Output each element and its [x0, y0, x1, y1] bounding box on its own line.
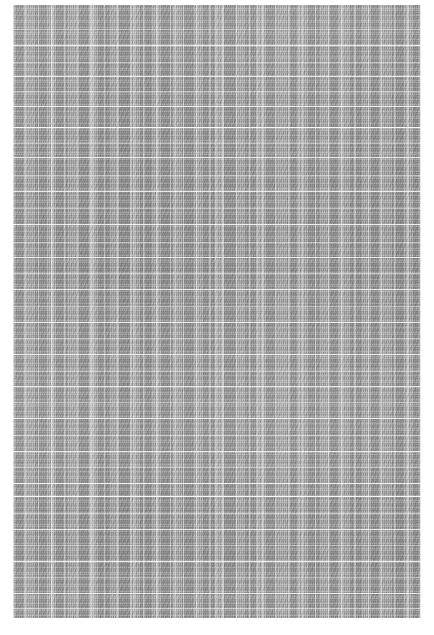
fabric-weft-line	[13, 62, 421, 63]
fabric-weft-line	[13, 467, 421, 468]
fabric-weft-line	[13, 608, 421, 609]
fabric-weft-line	[13, 577, 421, 578]
fabric-weft-line	[13, 496, 421, 497]
fabric-weft-line	[13, 29, 421, 30]
fabric-weft-line	[13, 451, 421, 452]
fabric-weft-line	[13, 191, 421, 192]
fabric-weft-line	[13, 175, 421, 176]
fabric-weft-line	[13, 529, 421, 530]
fabric-weft-line	[13, 224, 421, 225]
fabric-weft-line	[13, 106, 421, 107]
fabric-warp-threads-layer	[13, 5, 421, 618]
fabric-weft-line	[13, 45, 421, 46]
fabric-weft-line	[13, 143, 421, 144]
fabric-weft-line	[13, 273, 421, 274]
fabric-weft-line	[13, 545, 421, 546]
fabric-weft-line	[13, 257, 421, 258]
fabric-weft-line	[13, 386, 421, 387]
fabric-weft-line	[13, 208, 421, 209]
fabric-weft-line	[13, 513, 421, 514]
fabric-weft-line	[13, 418, 421, 419]
fabric-selvedge-left	[13, 5, 16, 618]
fabric-warp-slub-layer	[13, 5, 421, 618]
fabric-weft-line	[13, 371, 421, 372]
fabric-weft-line	[13, 91, 421, 92]
fabric-selvedge-right	[418, 5, 421, 618]
image-canvas	[0, 0, 434, 635]
fabric-swatch	[13, 5, 421, 618]
fabric-weft-line	[13, 561, 421, 562]
fabric-weft-line	[13, 306, 421, 307]
fabric-weft-line	[13, 322, 421, 323]
fabric-weft-line	[13, 354, 421, 355]
fabric-weft-line	[13, 289, 421, 290]
fabric-weft-line	[13, 483, 421, 484]
fabric-weft-line	[13, 242, 421, 243]
fabric-weft-highlight-lines	[13, 5, 421, 618]
fabric-warp-band-layer	[13, 5, 421, 618]
fabric-weft-line	[13, 435, 421, 436]
fabric-weft-line	[13, 593, 421, 594]
fabric-weft-line	[13, 76, 421, 77]
fabric-weft-line	[13, 402, 421, 403]
fabric-noise-layer	[13, 5, 421, 618]
fabric-shading-layer	[13, 5, 421, 618]
fabric-weft-line	[13, 157, 421, 158]
fabric-weft-line	[13, 338, 421, 339]
fabric-weft-threads-layer	[13, 5, 421, 618]
fabric-weft-line	[13, 127, 421, 128]
